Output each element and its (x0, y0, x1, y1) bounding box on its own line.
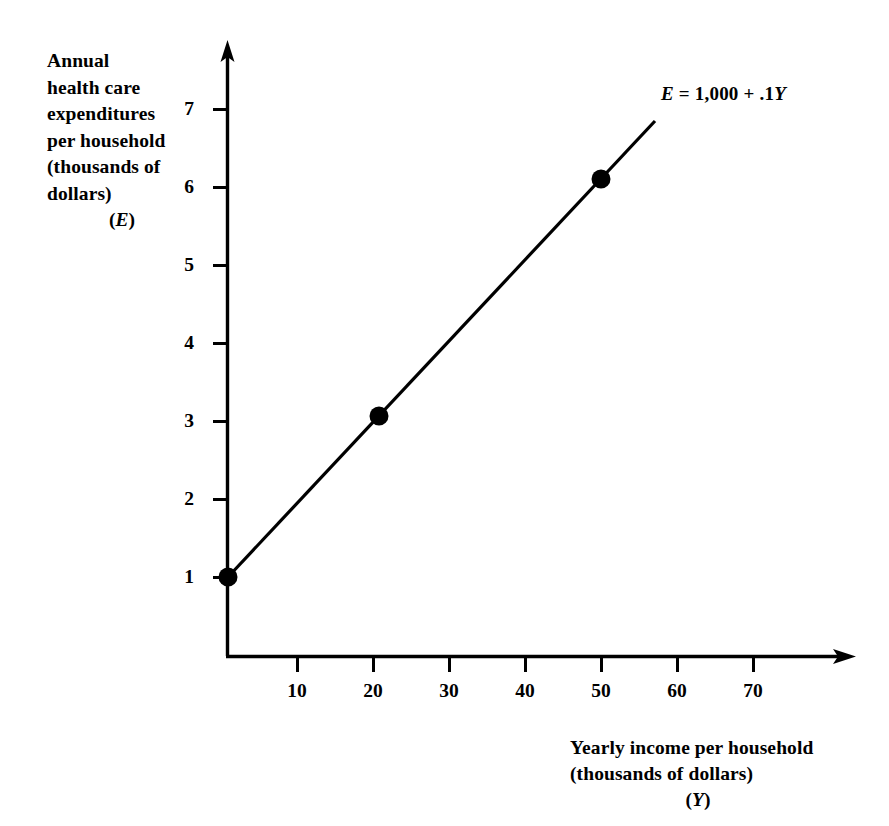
equation-annotation: E = 1,000 + .1Y (661, 83, 786, 105)
x-axis-symbol-letter: Y (692, 789, 704, 810)
chart-figure: 7 6 5 4 3 2 1 10 20 30 40 50 60 70 Annua… (0, 0, 889, 826)
equation-constant: 1,000 + .1 (695, 83, 774, 104)
y-axis-symbol-paren-close: ) (129, 209, 136, 230)
y-tick-label-5: 5 (168, 255, 194, 275)
x-axis-ticks (298, 657, 754, 672)
x-tick-label-60: 60 (660, 681, 694, 701)
equation-variable: Y (774, 83, 786, 104)
equation-lhs: E (661, 83, 674, 104)
y-axis-symbol: (E) (47, 207, 197, 234)
data-point-0-1 (219, 568, 238, 587)
x-tick-label-30: 30 (432, 681, 466, 701)
y-tick-label-4: 4 (168, 333, 194, 353)
equation-operator: = (674, 83, 695, 104)
y-axis-ticks (213, 110, 227, 578)
y-axis-symbol-letter: E (115, 209, 128, 230)
x-axis-symbol-paren-open: ( (685, 789, 692, 810)
data-point-50-6 (592, 170, 611, 189)
x-tick-label-20: 20 (356, 681, 390, 701)
y-tick-label-2: 2 (168, 489, 194, 509)
y-tick-label-1: 1 (168, 567, 194, 587)
x-tick-label-70: 70 (736, 681, 770, 701)
data-point-20-3 (370, 407, 389, 426)
x-axis-symbol-paren-close: ) (704, 789, 711, 810)
x-tick-label-50: 50 (584, 681, 618, 701)
y-axis-title: Annual health care expenditures per hous… (47, 48, 197, 207)
expenditure-function-line (228, 121, 655, 577)
x-axis-title-line1: Yearly income per household (570, 735, 880, 762)
x-tick-label-40: 40 (508, 681, 542, 701)
x-axis-symbol: (Y) (570, 787, 826, 814)
x-tick-label-10: 10 (280, 681, 314, 701)
x-axis-title-line2: (thousands of dollars) (570, 761, 880, 788)
y-tick-label-3: 3 (168, 411, 194, 431)
